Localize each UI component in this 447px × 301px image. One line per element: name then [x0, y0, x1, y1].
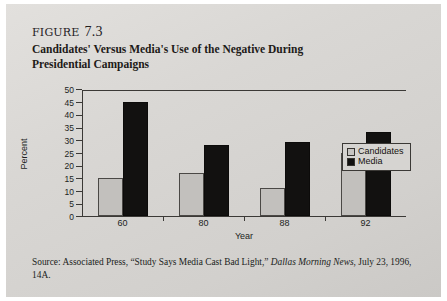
- y-tick-label: 20: [65, 161, 74, 171]
- y-tick-label: 40: [65, 110, 74, 120]
- legend-item-media: Media: [347, 157, 404, 166]
- y-tick-label: 45: [65, 98, 74, 108]
- source-caption: Source: Associated Press, “Study Says Me…: [32, 256, 424, 282]
- y-tick-label: 0: [69, 212, 74, 222]
- source-prefix: Source: Associated Press, “Study Says Me…: [32, 257, 271, 267]
- legend-item-candidates: Candidates: [347, 147, 404, 156]
- legend-label-candidates: Candidates: [358, 147, 404, 156]
- bar-candidates-80: [179, 173, 204, 216]
- y-axis: 05101520253035404550: [46, 90, 82, 217]
- legend-label-media: Media: [358, 157, 383, 166]
- bar-group: [83, 91, 164, 216]
- y-tick-label: 25: [65, 149, 74, 159]
- y-tick-label: 15: [65, 174, 74, 184]
- figure-label-word: figure: [32, 22, 80, 40]
- legend-swatch-media-icon: [347, 158, 355, 166]
- figure-label: figure 7.3: [32, 24, 422, 40]
- figure-page: figure 7.3 Candidates' Versus Media's Us…: [6, 4, 441, 297]
- chart-legend: Candidates Media: [342, 143, 411, 171]
- y-tick-label: 10: [65, 187, 74, 197]
- y-axis-title: Percent: [19, 138, 29, 169]
- figure-header: figure 7.3 Candidates' Versus Media's Us…: [32, 24, 422, 72]
- bar-media-88: [285, 142, 310, 216]
- bar-candidates-60: [98, 178, 123, 216]
- bar-group: [164, 91, 245, 216]
- x-axis-labels: 60808892: [82, 218, 406, 228]
- x-tick-label: 60: [82, 218, 163, 228]
- y-tick-label: 35: [65, 123, 74, 133]
- bar-group: [245, 91, 326, 216]
- x-axis-title: Year: [82, 231, 406, 241]
- y-tick-label: 5: [69, 199, 74, 209]
- bar-media-60: [123, 102, 148, 216]
- legend-swatch-candidates-icon: [347, 148, 355, 156]
- x-tick-label: 92: [325, 218, 406, 228]
- y-tick-label: 30: [65, 136, 74, 146]
- bar-candidates-88: [260, 188, 285, 216]
- bar-media-80: [204, 145, 229, 216]
- y-tick-label: 50: [65, 85, 74, 95]
- x-tick-label: 88: [244, 218, 325, 228]
- source-publication: Dallas Morning News: [271, 257, 354, 267]
- x-tick-label: 80: [163, 218, 244, 228]
- figure-number: 7.3: [85, 24, 103, 39]
- figure-title: Candidates' Versus Media's Use of the Ne…: [32, 42, 332, 72]
